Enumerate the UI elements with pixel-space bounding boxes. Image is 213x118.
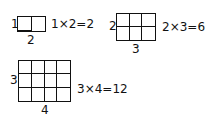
column-count-label: 3 [132, 43, 140, 55]
column-count-label: 2 [27, 34, 35, 46]
row-count-label: 3 [10, 74, 18, 86]
grid-1x2 [17, 16, 46, 32]
grid-cell [45, 61, 58, 74]
grid-cell [130, 27, 143, 40]
grid-cell [117, 27, 130, 40]
grid-cell [18, 17, 32, 31]
grid-cell [32, 17, 46, 31]
grid-cell [142, 14, 155, 27]
grid-cell [32, 61, 45, 74]
grid-cell [57, 61, 70, 74]
grid-cell [57, 74, 70, 87]
grid-cell [45, 74, 58, 87]
grid-cell [19, 74, 32, 87]
grid-cell [32, 74, 45, 87]
grid-cell [45, 88, 58, 101]
grid-cell [130, 14, 143, 27]
equation-text: 3×4=12 [77, 83, 128, 95]
column-count-label: 4 [41, 104, 49, 116]
grid-cell [32, 88, 45, 101]
grid-3x4 [18, 60, 71, 102]
grid-cell [19, 88, 32, 101]
equation-text: 1×2=2 [51, 18, 94, 30]
equation-text: 2×3=6 [162, 21, 205, 33]
grid-cell [57, 88, 70, 101]
grid-cell [19, 61, 32, 74]
grid-cell [117, 14, 130, 27]
grid-cell [142, 27, 155, 40]
grid-2x3 [116, 13, 156, 41]
